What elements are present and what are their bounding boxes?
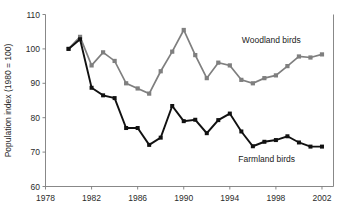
x-tick-label-2002: 2002	[313, 193, 332, 203]
y-axis-title: Population index (1980 = 100)	[3, 44, 13, 158]
data-point-marker	[159, 136, 163, 140]
data-point-marker	[320, 145, 324, 149]
data-point-marker	[113, 96, 117, 100]
x-tick-label-1994: 1994	[220, 193, 239, 203]
data-point-marker	[228, 112, 232, 116]
data-point-marker	[262, 76, 266, 80]
data-point-marker	[285, 134, 289, 138]
data-point-marker	[136, 126, 140, 130]
data-point-marker	[101, 50, 105, 54]
data-point-marker	[136, 86, 140, 90]
bird-population-chart: 6070809010011019781982198619901994199820…	[0, 0, 343, 217]
data-point-marker	[182, 119, 186, 123]
data-point-marker	[274, 138, 278, 142]
x-tick-label-1978: 1978	[36, 193, 55, 203]
series-annotation-1: Farmland birds	[238, 154, 295, 164]
x-tick-label-1986: 1986	[128, 193, 147, 203]
y-tick-label-90: 90	[31, 78, 41, 88]
data-point-marker	[297, 140, 301, 144]
data-point-marker	[205, 131, 209, 135]
x-tick-label-1998: 1998	[266, 193, 285, 203]
data-point-marker	[182, 28, 186, 32]
data-point-marker	[239, 78, 243, 82]
data-point-marker	[147, 143, 151, 147]
data-point-marker	[147, 92, 151, 96]
data-point-marker	[251, 81, 255, 85]
x-tick-label-1990: 1990	[174, 193, 193, 203]
data-point-marker	[124, 126, 128, 130]
data-point-marker	[170, 50, 174, 54]
y-tick-label-70: 70	[31, 147, 41, 157]
data-point-marker	[297, 54, 301, 58]
data-point-marker	[239, 129, 243, 133]
data-point-marker	[285, 64, 289, 68]
data-point-marker	[262, 140, 266, 144]
data-point-marker	[308, 145, 312, 149]
data-point-marker	[274, 73, 278, 77]
data-point-marker	[101, 93, 105, 97]
data-point-marker	[193, 53, 197, 57]
data-point-marker	[216, 61, 220, 65]
y-tick-label-100: 100	[26, 44, 40, 54]
data-point-marker	[205, 76, 209, 80]
data-point-marker	[216, 118, 220, 122]
data-point-marker	[308, 55, 312, 59]
y-tick-label-80: 80	[31, 113, 41, 123]
data-point-marker	[320, 52, 324, 56]
data-point-marker	[90, 86, 94, 90]
chart-canvas: 6070809010011019781982198619901994199820…	[0, 0, 343, 217]
x-tick-label-1982: 1982	[82, 193, 101, 203]
data-point-marker	[89, 63, 93, 67]
y-tick-label-110: 110	[26, 10, 40, 20]
data-point-marker	[113, 59, 117, 63]
data-point-marker	[124, 81, 128, 85]
data-point-marker	[193, 118, 197, 122]
y-tick-label-60: 60	[31, 182, 41, 192]
data-point-marker	[67, 47, 71, 51]
data-point-marker	[170, 104, 174, 108]
data-point-marker	[251, 144, 255, 148]
data-point-marker	[78, 37, 82, 41]
data-point-marker	[228, 63, 232, 67]
series-annotation-0: Woodland birds	[242, 35, 301, 45]
data-point-marker	[159, 69, 163, 73]
